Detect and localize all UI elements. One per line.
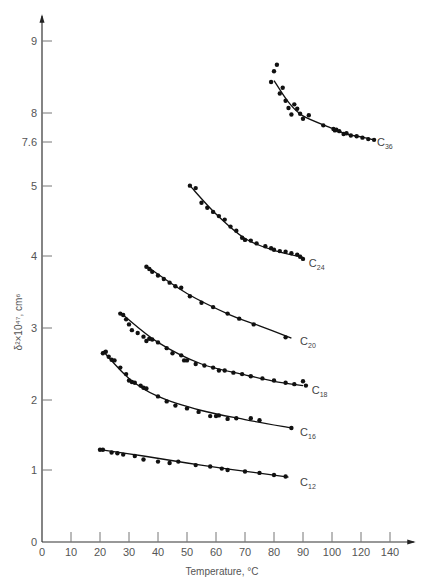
x-tick-label: 50 xyxy=(181,546,193,558)
series-label: C16 xyxy=(300,426,316,440)
data-point xyxy=(127,322,131,326)
data-point xyxy=(179,353,183,357)
data-point xyxy=(109,450,113,454)
data-point xyxy=(298,112,302,116)
data-point xyxy=(156,459,160,463)
data-point xyxy=(188,294,192,298)
data-point xyxy=(165,399,169,403)
series-c18: C18 xyxy=(118,311,327,398)
x-axis-ticks: 0102030405060708090100120140 xyxy=(39,532,399,558)
data-point xyxy=(165,346,169,350)
y-tick-label: 7.6 xyxy=(22,136,37,148)
data-point xyxy=(199,301,203,305)
data-point xyxy=(307,113,311,117)
data-point xyxy=(124,372,128,376)
data-point xyxy=(199,201,203,205)
data-point xyxy=(272,248,276,252)
data-point xyxy=(257,471,261,475)
data-point xyxy=(211,210,215,214)
y-tick-label: 4 xyxy=(31,250,37,262)
series-label: C20 xyxy=(300,335,316,349)
data-point xyxy=(141,457,145,461)
x-tick-label: 10 xyxy=(65,546,77,558)
data-point xyxy=(234,229,238,233)
data-point xyxy=(283,250,287,254)
data-point xyxy=(252,322,256,326)
data-point xyxy=(289,426,293,430)
y-tick-label: 8 xyxy=(31,107,37,119)
data-point xyxy=(121,452,125,456)
chart-canvas: 0102030405060708090100120140 0123457.689… xyxy=(0,0,425,581)
data-point xyxy=(272,378,276,382)
data-point xyxy=(217,413,221,417)
data-point xyxy=(211,365,215,369)
data-point xyxy=(170,351,174,355)
series-c24: C24 xyxy=(188,183,325,271)
y-axis-title: δ²×10⁴⁷, cm⁶ xyxy=(13,294,24,351)
data-point xyxy=(220,466,224,470)
data-point xyxy=(366,137,370,141)
data-point xyxy=(301,257,305,261)
data-point xyxy=(360,135,364,139)
data-point xyxy=(337,129,341,133)
series-label: C24 xyxy=(309,257,325,271)
data-point xyxy=(272,473,276,477)
data-point xyxy=(202,363,206,367)
series-c20: C20 xyxy=(144,265,316,349)
data-point xyxy=(205,206,209,210)
fit-curve xyxy=(123,315,303,386)
data-point xyxy=(243,238,247,242)
data-point xyxy=(156,394,160,398)
data-point xyxy=(194,463,198,467)
data-point xyxy=(289,251,293,255)
data-point xyxy=(269,80,273,84)
series-label: C18 xyxy=(312,384,328,398)
data-point xyxy=(372,138,376,142)
data-point xyxy=(231,370,235,374)
y-tick-label: 0 xyxy=(31,536,37,548)
data-point xyxy=(133,454,137,458)
data-point xyxy=(272,69,276,73)
data-point xyxy=(301,379,305,383)
data-point xyxy=(292,382,296,386)
data-point xyxy=(208,464,212,468)
data-point xyxy=(104,350,108,354)
data-point xyxy=(234,416,238,420)
data-point xyxy=(167,280,171,284)
data-point xyxy=(223,217,227,221)
x-tick-label: 0 xyxy=(39,546,45,558)
data-point xyxy=(176,459,180,463)
data-point xyxy=(304,383,308,387)
y-tick-label: 2 xyxy=(31,394,37,406)
fit-curve xyxy=(274,81,374,140)
data-point xyxy=(208,414,212,418)
data-point xyxy=(283,381,287,385)
data-point xyxy=(349,133,353,137)
data-point xyxy=(173,284,177,288)
data-point xyxy=(156,273,160,277)
series-label: C36 xyxy=(377,136,393,150)
x-tick-label: 60 xyxy=(210,546,222,558)
data-point xyxy=(173,403,177,407)
data-point xyxy=(115,451,119,455)
data-point xyxy=(321,123,325,127)
data-point xyxy=(249,238,253,242)
y-tick-label: 5 xyxy=(31,180,37,192)
data-point xyxy=(281,86,285,90)
data-point xyxy=(286,106,290,110)
data-point xyxy=(254,241,258,245)
data-point xyxy=(185,406,189,410)
data-point xyxy=(133,381,137,385)
data-point xyxy=(249,416,253,420)
data-point xyxy=(121,313,125,317)
x-tick-label: 20 xyxy=(94,546,106,558)
data-point xyxy=(228,224,232,228)
data-point xyxy=(275,63,279,67)
data-point xyxy=(283,474,287,478)
data-point xyxy=(249,374,253,378)
x-tick-label: 30 xyxy=(123,546,135,558)
data-point xyxy=(225,311,229,315)
data-point xyxy=(278,91,282,95)
data-point xyxy=(278,249,282,253)
series-c36: C36 xyxy=(269,63,393,151)
